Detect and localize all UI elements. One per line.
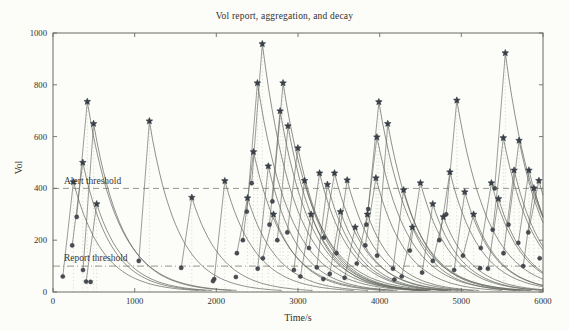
svg-text:200: 200 bbox=[34, 235, 48, 245]
svg-text:1000: 1000 bbox=[126, 296, 144, 306]
plot-canvas: 0100020003000400050006000020040060080010… bbox=[0, 0, 569, 330]
svg-text:4000: 4000 bbox=[371, 296, 389, 306]
svg-text:6000: 6000 bbox=[534, 296, 552, 306]
svg-text:400: 400 bbox=[34, 183, 48, 193]
svg-text:0: 0 bbox=[43, 287, 48, 297]
report-threshold-label: Report threshold bbox=[64, 253, 128, 263]
svg-text:600: 600 bbox=[34, 132, 48, 142]
svg-text:0: 0 bbox=[51, 296, 56, 306]
svg-text:1000: 1000 bbox=[30, 28, 48, 38]
svg-text:3000: 3000 bbox=[289, 296, 307, 306]
svg-text:2000: 2000 bbox=[208, 296, 226, 306]
svg-text:800: 800 bbox=[34, 80, 48, 90]
svg-text:5000: 5000 bbox=[453, 296, 471, 306]
x-axis-label: Time/s bbox=[53, 312, 543, 323]
chart: Vol report, aggregation, and decay 01000… bbox=[0, 0, 569, 330]
y-axis-label: Vol bbox=[13, 138, 24, 198]
alert-threshold-label: Alert threshold bbox=[64, 176, 121, 186]
